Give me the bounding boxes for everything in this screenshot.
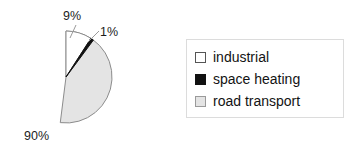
legend-label-space-heating: space heating	[213, 72, 300, 86]
legend-item-road-transport: road transport	[195, 90, 339, 112]
filled-square-icon	[195, 74, 206, 85]
pie-chart-figure: 9% 1% 90% industrial space heating road …	[0, 0, 348, 149]
legend-label-road-transport: road transport	[213, 94, 300, 108]
pie-label-road-transport: 90%	[24, 130, 49, 143]
legend-item-industrial: industrial	[195, 46, 339, 68]
pie-label-space-heating: 1%	[100, 26, 118, 39]
outlined-square-icon	[195, 52, 206, 63]
legend-item-space-heating: space heating	[195, 68, 339, 90]
chart-legend: industrial space heating road transport	[186, 39, 344, 118]
legend-label-industrial: industrial	[213, 50, 269, 64]
gray-square-icon	[195, 96, 206, 107]
pie-plot-area: 9% 1% 90%	[0, 0, 174, 149]
pie-label-industrial: 9%	[63, 10, 81, 23]
pie-graphic	[0, 0, 174, 149]
legend-item-list: industrial space heating road transport	[195, 46, 339, 112]
